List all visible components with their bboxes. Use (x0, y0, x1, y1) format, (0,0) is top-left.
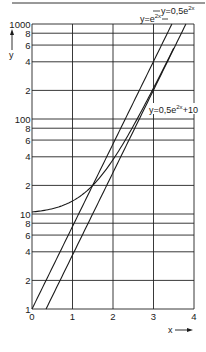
y-tick-label: 4 (25, 246, 30, 257)
y-tick-label: 6 (25, 40, 30, 51)
x-tick-label: 1 (70, 311, 75, 322)
x-axis-arrow-icon (175, 328, 193, 332)
x-tick-label: 2 (110, 311, 115, 322)
x-axis-label: x (168, 325, 173, 335)
y-tick-label: 6 (25, 135, 30, 146)
y-tick-label: 6 (25, 230, 30, 241)
y-tick-label: 4 (25, 151, 30, 162)
svg-text:y=0,5e2x+10: y=0,5e2x+10 (149, 104, 198, 115)
curve-half-exp-2x-plus-10 (32, 48, 174, 212)
y-tick-label: 2 (25, 85, 30, 96)
y-tick-label: 1000 (9, 19, 30, 30)
tick-labels: 124681024681002468100001234 (9, 19, 196, 323)
grid (32, 24, 194, 309)
label-half-exp-plus-10: y=0,5e2x+10 (148, 103, 198, 115)
x-tick-label: 4 (191, 311, 196, 322)
y-tick-label: 2 (25, 180, 30, 191)
y-tick-label: 10 (20, 209, 31, 220)
chart: 124681024681002468100001234 y x y=0,5e2x… (0, 0, 206, 352)
curve-exp-2x (32, 24, 172, 309)
y-axis-arrow-icon (10, 29, 14, 50)
x-tick-label: 3 (151, 311, 156, 322)
y-axis-label: y (9, 50, 14, 60)
y-tick-label: 2 (25, 275, 30, 286)
y-tick-label: 4 (25, 56, 30, 67)
curves (32, 24, 186, 309)
y-tick-label: 100 (15, 114, 31, 125)
x-tick-label: 0 (29, 311, 34, 322)
svg-text:y=0,5e2x: y=0,5e2x (161, 5, 195, 16)
